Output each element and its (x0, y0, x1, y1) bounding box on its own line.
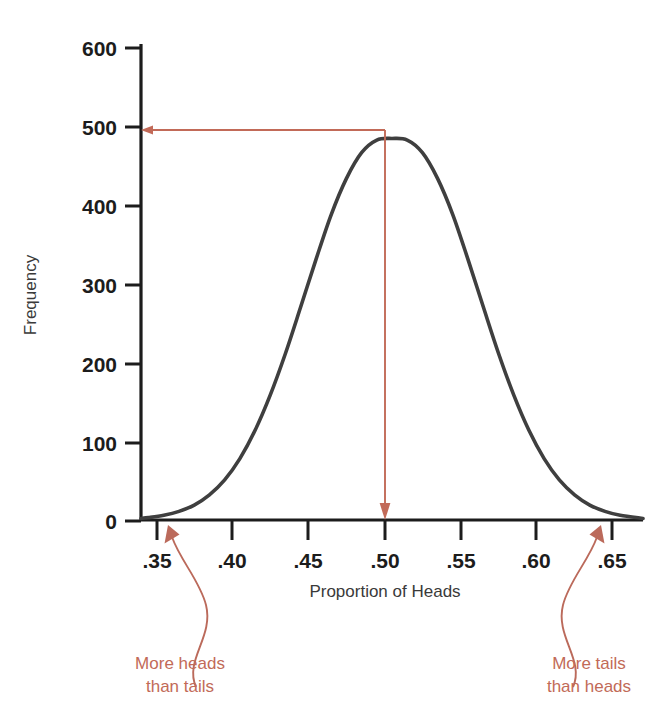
x-ticklabel-50: .50 (370, 549, 399, 572)
y-axis-title: Frequency (21, 254, 40, 335)
x-ticklabel-40: .40 (217, 549, 246, 572)
y-ticklabel-500: 500 (82, 116, 117, 139)
x-ticklabel-65: .65 (597, 549, 627, 572)
y-ticklabel-0: 0 (105, 510, 117, 533)
x-ticklabel-45: .45 (293, 549, 323, 572)
y-ticklabel-600: 600 (82, 37, 117, 60)
x-axis-title: Proportion of Heads (309, 582, 460, 601)
x-ticklabel-60: .60 (521, 549, 550, 572)
y-ticklabel-300: 300 (82, 274, 117, 297)
y-ticklabel-200: 200 (82, 353, 117, 376)
x-ticklabel-55: .55 (446, 549, 476, 572)
x-ticklabel-35: .35 (142, 549, 172, 572)
right-note-line-1: More tails (552, 654, 626, 673)
left-note-line-2: than tails (146, 677, 214, 696)
right-note-line-2: than heads (547, 677, 631, 696)
bell-curve-figure: 600 500 400 300 200 100 0 Frequency .35 … (0, 0, 657, 726)
y-ticklabel-100: 100 (82, 432, 117, 455)
left-note-line-1: More heads (135, 654, 225, 673)
y-ticklabel-400: 400 (82, 195, 117, 218)
